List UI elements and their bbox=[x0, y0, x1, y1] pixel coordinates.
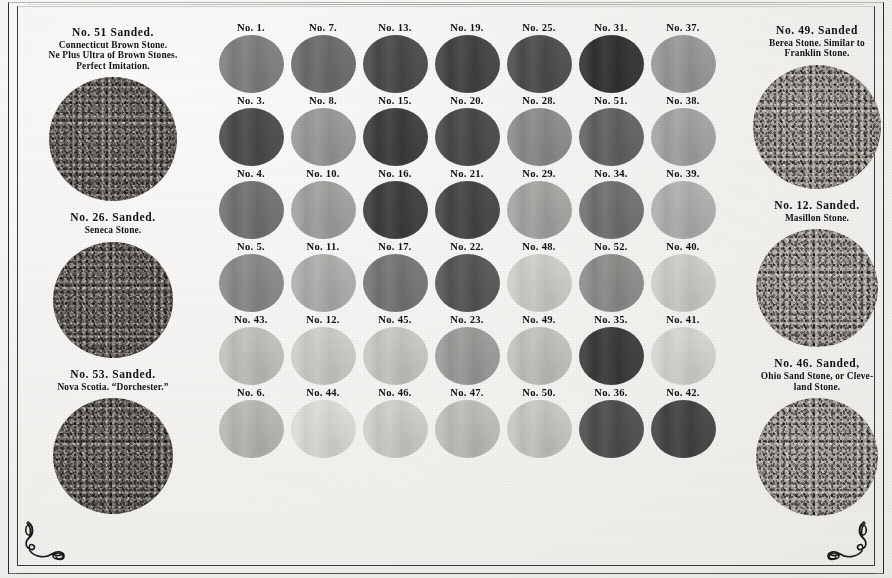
swatch-cell[interactable]: No. 19. bbox=[432, 22, 502, 93]
swatch-cell[interactable]: No. 50. bbox=[504, 387, 574, 458]
swatch-cell[interactable]: No. 28. bbox=[504, 95, 574, 166]
sanded-swatch[interactable] bbox=[53, 242, 173, 358]
color-swatch[interactable] bbox=[651, 181, 716, 239]
color-swatch[interactable] bbox=[291, 108, 356, 166]
swatch-label: No. 17. bbox=[378, 241, 412, 252]
swatch-cell[interactable]: No. 4. bbox=[216, 168, 286, 239]
color-swatch[interactable] bbox=[363, 181, 428, 239]
swatch-cell[interactable]: No. 40. bbox=[648, 241, 718, 312]
color-swatch[interactable] bbox=[291, 254, 356, 312]
swatch-cell[interactable]: No. 11. bbox=[288, 241, 358, 312]
left-sanded-column: No. 51 Sanded.Connecticut Brown Stone.Ne… bbox=[20, 8, 206, 564]
color-swatch[interactable] bbox=[219, 108, 284, 166]
swatch-cell[interactable]: No. 20. bbox=[432, 95, 502, 166]
color-swatch[interactable] bbox=[435, 400, 500, 458]
color-swatch[interactable] bbox=[435, 254, 500, 312]
swatch-cell[interactable]: No. 13. bbox=[360, 22, 430, 93]
color-swatch[interactable] bbox=[651, 108, 716, 166]
color-swatch[interactable] bbox=[291, 35, 356, 93]
swatch-cell[interactable]: No. 48. bbox=[504, 241, 574, 312]
color-swatch[interactable] bbox=[507, 327, 572, 385]
color-swatch[interactable] bbox=[507, 254, 572, 312]
swatch-cell[interactable]: No. 44. bbox=[288, 387, 358, 458]
swatch-cell[interactable]: No. 12. bbox=[288, 314, 358, 385]
color-swatch[interactable] bbox=[651, 327, 716, 385]
swatch-cell[interactable]: No. 51. bbox=[576, 95, 646, 166]
sanded-swatch[interactable] bbox=[53, 398, 173, 514]
color-swatch[interactable] bbox=[651, 35, 716, 93]
color-swatch[interactable] bbox=[291, 400, 356, 458]
sanded-caption: No. 49. SandedBerea Stone. Similar toFra… bbox=[727, 24, 892, 59]
color-swatch[interactable] bbox=[507, 108, 572, 166]
sanded-swatch[interactable] bbox=[49, 77, 177, 201]
color-swatch[interactable] bbox=[435, 108, 500, 166]
swatch-cell[interactable]: No. 41. bbox=[648, 314, 718, 385]
swatch-cell[interactable]: No. 35. bbox=[576, 314, 646, 385]
swatch-label: No. 25. bbox=[522, 22, 556, 33]
color-swatch[interactable] bbox=[507, 400, 572, 458]
color-swatch[interactable] bbox=[507, 35, 572, 93]
swatch-cell[interactable]: No. 46. bbox=[360, 387, 430, 458]
swatch-cell[interactable]: No. 31. bbox=[576, 22, 646, 93]
swatch-cell[interactable]: No. 1. bbox=[216, 22, 286, 93]
color-swatch[interactable] bbox=[291, 181, 356, 239]
color-swatch[interactable] bbox=[363, 400, 428, 458]
swatch-cell[interactable]: No. 15. bbox=[360, 95, 430, 166]
color-swatch[interactable] bbox=[579, 327, 644, 385]
swatch-cell[interactable]: No. 34. bbox=[576, 168, 646, 239]
color-swatch[interactable] bbox=[435, 327, 500, 385]
color-swatch[interactable] bbox=[219, 35, 284, 93]
color-swatch[interactable] bbox=[507, 181, 572, 239]
color-swatch[interactable] bbox=[363, 35, 428, 93]
sanded-swatch[interactable] bbox=[756, 229, 878, 347]
swatch-cell[interactable]: No. 38. bbox=[648, 95, 718, 166]
swatch-label: No. 36. bbox=[594, 387, 628, 398]
swatch-cell[interactable]: No. 47. bbox=[432, 387, 502, 458]
swatch-cell[interactable]: No. 36. bbox=[576, 387, 646, 458]
swatch-cell[interactable]: No. 16. bbox=[360, 168, 430, 239]
color-swatch[interactable] bbox=[219, 327, 284, 385]
swatch-cell[interactable]: No. 3. bbox=[216, 95, 286, 166]
swatch-cell[interactable]: No. 6. bbox=[216, 387, 286, 458]
color-swatch[interactable] bbox=[579, 254, 644, 312]
color-swatch[interactable] bbox=[435, 181, 500, 239]
color-swatch[interactable] bbox=[219, 400, 284, 458]
color-swatch[interactable] bbox=[651, 254, 716, 312]
color-swatch[interactable] bbox=[579, 400, 644, 458]
swatch-cell[interactable]: No. 49. bbox=[504, 314, 574, 385]
swatch-label: No. 5. bbox=[237, 241, 265, 252]
sanded-caption-subtitle: Ohio Sand Stone, or Cleve-land Stone. bbox=[727, 371, 892, 392]
color-swatch[interactable] bbox=[579, 108, 644, 166]
swatch-cell[interactable]: No. 52. bbox=[576, 241, 646, 312]
swatch-cell[interactable]: No. 5. bbox=[216, 241, 286, 312]
sanded-caption-title: No. 49. Sanded bbox=[727, 24, 892, 37]
swatch-cell[interactable]: No. 17. bbox=[360, 241, 430, 312]
color-swatch[interactable] bbox=[435, 35, 500, 93]
sanded-swatch[interactable] bbox=[753, 65, 881, 189]
right-sanded-column: No. 49. SandedBerea Stone. Similar toFra… bbox=[724, 8, 892, 564]
swatch-cell[interactable]: No. 7. bbox=[288, 22, 358, 93]
color-swatch[interactable] bbox=[363, 108, 428, 166]
swatch-cell[interactable]: No. 21. bbox=[432, 168, 502, 239]
swatch-cell[interactable]: No. 43. bbox=[216, 314, 286, 385]
swatch-cell[interactable]: No. 29. bbox=[504, 168, 574, 239]
color-swatch[interactable] bbox=[219, 181, 284, 239]
swatch-cell[interactable]: No. 25. bbox=[504, 22, 574, 93]
swatch-cell[interactable]: No. 8. bbox=[288, 95, 358, 166]
swatch-cell[interactable]: No. 45. bbox=[360, 314, 430, 385]
color-swatch[interactable] bbox=[219, 254, 284, 312]
color-swatch[interactable] bbox=[363, 254, 428, 312]
swatch-label: No. 51. bbox=[594, 95, 628, 106]
sanded-swatch[interactable] bbox=[756, 398, 878, 516]
color-swatch[interactable] bbox=[291, 327, 356, 385]
color-swatch[interactable] bbox=[579, 35, 644, 93]
swatch-cell[interactable]: No. 42. bbox=[648, 387, 718, 458]
color-swatch[interactable] bbox=[363, 327, 428, 385]
swatch-cell[interactable]: No. 10. bbox=[288, 168, 358, 239]
swatch-cell[interactable]: No. 23. bbox=[432, 314, 502, 385]
color-swatch[interactable] bbox=[651, 400, 716, 458]
swatch-cell[interactable]: No. 39. bbox=[648, 168, 718, 239]
swatch-cell[interactable]: No. 22. bbox=[432, 241, 502, 312]
color-swatch[interactable] bbox=[579, 181, 644, 239]
swatch-cell[interactable]: No. 37. bbox=[648, 22, 718, 93]
